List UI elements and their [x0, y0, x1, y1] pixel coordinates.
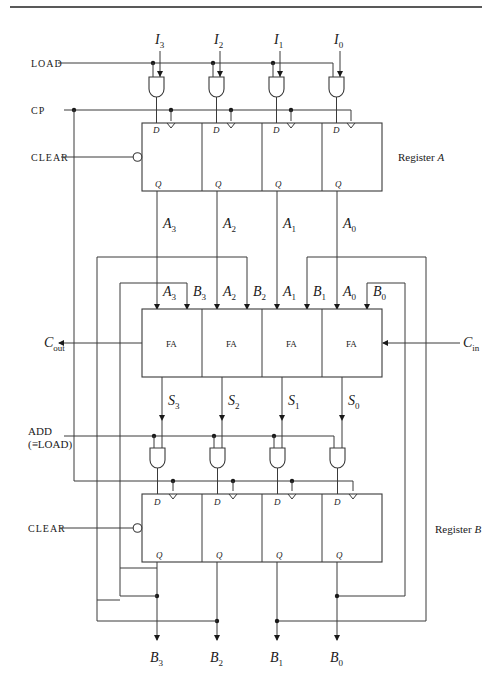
add-taps: [152, 420, 342, 448]
fa-cell-2: FA: [226, 339, 237, 349]
a-output-labels: A3 A2 A1 A0: [162, 216, 357, 234]
register-a-label: Register A: [398, 151, 444, 163]
input-label-i2: I2: [213, 32, 223, 50]
and-gate-icon: [149, 77, 164, 97]
fa-cell-3: FA: [166, 339, 177, 349]
svg-text:A1: A1: [282, 216, 296, 234]
sum-labels: S3 S2 S1 S0: [168, 393, 360, 411]
svg-text:D: D: [333, 497, 341, 507]
carry-in-label: Cin: [463, 335, 480, 353]
svg-text:D: D: [272, 125, 280, 135]
add-label: ADD: [28, 425, 52, 437]
load-wire: [58, 63, 333, 77]
b-output-labels: B3 B2 B1 B0: [150, 650, 344, 668]
cp-wire: [64, 110, 351, 121]
svg-text:S2: S2: [228, 393, 240, 411]
cp-label: CP: [31, 105, 45, 116]
svg-text:D: D: [273, 497, 281, 507]
input-label-i1: I1: [273, 32, 283, 50]
and-gate-icon: [330, 448, 345, 468]
and-gate-icon: [270, 448, 285, 468]
fa-cell-1: FA: [286, 339, 297, 349]
fa-cell-0: FA: [346, 339, 357, 349]
input-labels: I3 I2 I1 I0: [154, 32, 344, 50]
input-label-i3: I3: [154, 32, 165, 50]
svg-text:D: D: [332, 125, 340, 135]
svg-text:D: D: [212, 125, 220, 135]
svg-text:B0: B0: [373, 284, 387, 302]
svg-text:A1: A1: [282, 284, 296, 302]
svg-text:S0: S0: [348, 393, 360, 411]
svg-text:A0: A0: [342, 216, 357, 234]
inversion-bubble-icon: [133, 524, 142, 533]
svg-text:B1: B1: [313, 284, 326, 302]
and-gate-icon: [210, 448, 225, 468]
svg-text:S1: S1: [288, 393, 300, 411]
add-wire: [64, 436, 334, 448]
b-output-wires: [97, 562, 339, 640]
svg-text:D: D: [213, 497, 221, 507]
svg-text:B2: B2: [253, 284, 266, 302]
svg-text:Q: Q: [276, 550, 283, 560]
svg-text:Q: Q: [336, 550, 343, 560]
input-label-i0: I0: [333, 32, 344, 50]
adder-accumulator-diagram: I3 I2 I1 I0 LOAD CP: [0, 0, 496, 677]
svg-text:A3: A3: [162, 284, 177, 302]
svg-text:D: D: [153, 497, 161, 507]
full-adder-row: FA FA FA FA: [142, 309, 382, 377]
sum-wires: [162, 377, 342, 420]
svg-text:B3: B3: [193, 284, 207, 302]
and-gate-icon: [329, 77, 344, 97]
register-b-label: Register B: [435, 523, 481, 535]
and-gate-icon: [150, 448, 165, 468]
svg-text:S3: S3: [168, 393, 180, 411]
svg-text:Q: Q: [215, 179, 222, 189]
register-b: D D D D Q Q Q Q Register B: [142, 494, 481, 562]
svg-text:A0: A0: [342, 284, 357, 302]
and-gate-icon: [269, 77, 284, 97]
svg-text:Q: Q: [156, 550, 163, 560]
svg-text:A2: A2: [222, 216, 236, 234]
svg-text:D: D: [152, 125, 160, 135]
svg-text:A3: A3: [162, 216, 177, 234]
svg-text:Q: Q: [335, 179, 342, 189]
svg-text:B3: B3: [150, 650, 164, 668]
carry-out-label: Cout: [44, 335, 65, 353]
and-gates-top: [149, 77, 344, 123]
svg-text:Q: Q: [216, 550, 223, 560]
svg-text:A2: A2: [222, 284, 236, 302]
svg-text:Q: Q: [155, 179, 162, 189]
and-gates-bottom: [150, 448, 345, 494]
add-label-note: (≡LOAD): [28, 438, 72, 451]
svg-text:B0: B0: [330, 650, 344, 668]
inversion-bubble-icon: [133, 153, 142, 162]
svg-text:B1: B1: [270, 650, 283, 668]
svg-text:B2: B2: [210, 650, 223, 668]
and-gate-icon: [209, 77, 224, 97]
register-a: D D D D Q Q Q Q Register A: [142, 123, 444, 191]
svg-text:Q: Q: [275, 179, 282, 189]
